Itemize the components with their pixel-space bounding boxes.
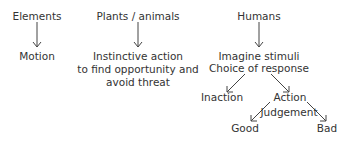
choice-of-response-line: Choice of response — [209, 62, 309, 75]
arrow-plants-instinctive — [134, 22, 142, 47]
arrow-elements-motion — [33, 22, 41, 47]
inaction-label: Inaction — [201, 91, 243, 104]
motion-label: Motion — [19, 50, 55, 63]
arrow-choice-action — [271, 74, 289, 92]
arrow-choice-inaction — [227, 74, 245, 92]
instinctive-action-line: Instinctive action — [93, 50, 183, 63]
find-opportunity-line: to find opportunity and — [77, 63, 198, 76]
action-label: Action — [274, 91, 307, 104]
humans-heading: Humans — [237, 10, 280, 23]
elements-heading: Elements — [13, 10, 62, 23]
arrow-humans-imagine — [255, 22, 263, 47]
imagine-stimuli-line: Imagine stimuli — [218, 50, 299, 63]
plants-animals-heading: Plants / animals — [96, 10, 179, 23]
good-label: Good — [231, 122, 259, 135]
judgement-label: Judgement — [260, 106, 317, 119]
bad-label: Bad — [317, 122, 337, 135]
avoid-threat-line: avoid threat — [106, 76, 170, 89]
